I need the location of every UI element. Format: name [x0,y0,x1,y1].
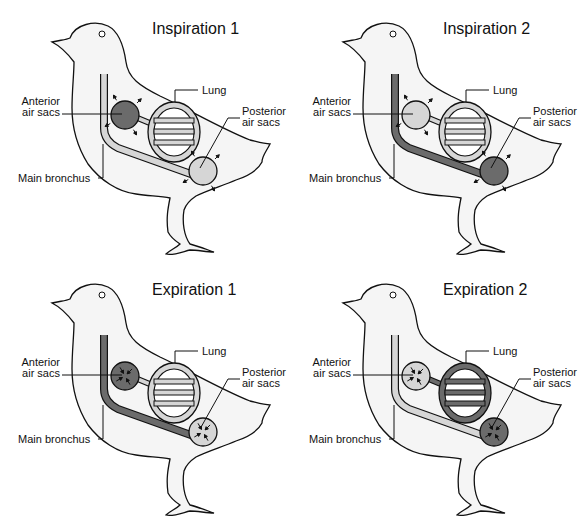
main-bronchus-label: Main bronchus [309,173,381,184]
eye-icon [390,31,396,37]
anterior-air-sac [111,362,139,390]
main-bronchus-label: Main bronchus [18,173,90,184]
lung-leader [175,351,198,363]
posterior-air-sacs-label: Posteriorair sacs [242,367,286,389]
lung-leader [175,90,198,102]
anterior-air-sac [402,362,430,390]
posterior-air-sacs-label: Posteriorair sacs [242,106,286,128]
panel-expiration-1: Expiration 1 Anteriorair sacs Lung Poste… [0,261,291,522]
bird-illustration [0,261,291,522]
lung-label: Lung [202,85,226,96]
anterior-air-sacs-label: Anteriorair sacs [312,357,351,379]
main-bronchus-label: Main bronchus [309,434,381,445]
posterior-air-sacs-label: Posteriorair sacs [533,367,577,389]
bird-illustration [291,261,582,522]
panel-expiration-2: Expiration 2 Anteriorair sacs Lung Poste… [291,261,582,522]
eye-icon [99,31,105,37]
main-bronchus-label: Main bronchus [18,434,90,445]
panel-title: Inspiration 2 [443,20,530,38]
lung [148,363,200,423]
lung-label: Lung [493,85,517,96]
anterior-air-sacs-label: Anteriorair sacs [21,357,60,379]
anterior-air-sacs-label: Anteriorair sacs [312,96,351,118]
anterior-air-sac [111,101,139,129]
lung-label: Lung [493,346,517,357]
posterior-air-sacs-label: Posteriorair sacs [533,106,577,128]
posterior-air-sac [480,418,508,446]
eye-icon [99,292,105,298]
bird-illustration [0,0,291,261]
posterior-air-sac [189,157,217,185]
posterior-air-sac [189,418,217,446]
panel-inspiration-1: Inspiration 1 Anteriorair sacs Lung Post… [0,0,291,261]
posterior-air-sac [480,157,508,185]
anterior-air-sacs-label: Anteriorair sacs [21,96,60,118]
panel-title: Inspiration 1 [152,20,239,38]
lung-label: Lung [202,346,226,357]
eye-icon [390,292,396,298]
bird-illustration [291,0,582,261]
panel-title: Expiration 1 [152,281,237,299]
lung-leader [466,351,489,363]
panel-inspiration-2: Inspiration 2 Anteriorair sacs Lung Post… [291,0,582,261]
lung [439,363,491,423]
panel-title: Expiration 2 [443,281,528,299]
anterior-air-sac [402,101,430,129]
lung-leader [466,90,489,102]
